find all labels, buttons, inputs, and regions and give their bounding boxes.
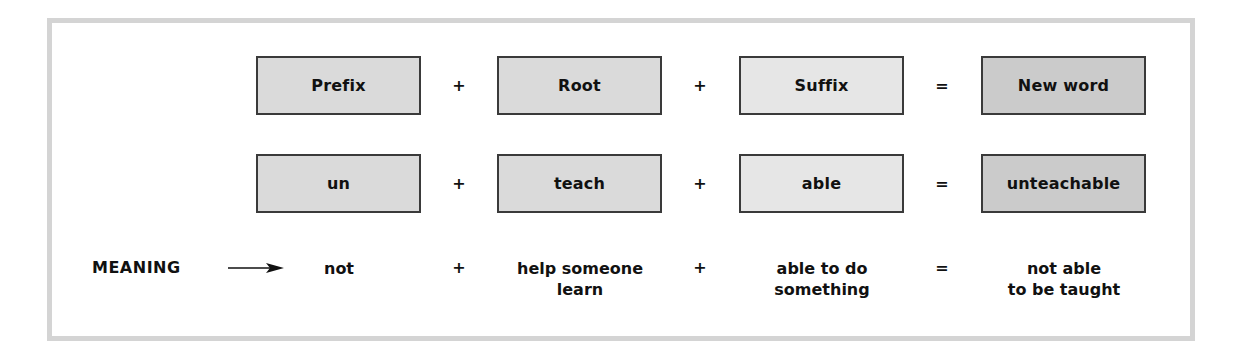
meaning-result-line2: to be taught xyxy=(974,279,1154,300)
plus-operator: + xyxy=(685,174,715,193)
meaning-prefix: not xyxy=(249,258,429,279)
plus-operator: + xyxy=(685,258,715,277)
root-header-label: Root xyxy=(558,76,601,95)
meaning-suffix-line2: something xyxy=(732,279,912,300)
meaning-root-line1: help someone xyxy=(490,258,670,279)
equals-operator: = xyxy=(927,76,957,95)
suffix-example-label: able xyxy=(802,174,841,193)
equals-operator: = xyxy=(927,174,957,193)
meaning-root: help someone learn xyxy=(490,258,670,300)
plus-operator: + xyxy=(444,174,474,193)
root-header-box: Root xyxy=(497,56,662,115)
suffix-header-box: Suffix xyxy=(739,56,904,115)
root-example-box: teach xyxy=(497,154,662,213)
plus-operator: + xyxy=(444,258,474,277)
meaning-suffix: able to do something xyxy=(732,258,912,300)
plus-operator: + xyxy=(685,76,715,95)
new-word-header-box: New word xyxy=(981,56,1146,115)
plus-operator: + xyxy=(444,76,474,95)
meaning-result-line1: not able xyxy=(974,258,1154,279)
suffix-header-label: Suffix xyxy=(795,76,849,95)
meaning-result: not able to be taught xyxy=(974,258,1154,300)
new-word-header-label: New word xyxy=(1018,76,1109,95)
prefix-header-box: Prefix xyxy=(256,56,421,115)
new-word-example-box: unteachable xyxy=(981,154,1146,213)
prefix-example-box: un xyxy=(256,154,421,213)
meaning-label: MEANING xyxy=(92,258,181,277)
new-word-example-label: unteachable xyxy=(1007,174,1121,193)
equals-operator: = xyxy=(927,258,957,277)
meaning-prefix-line1: not xyxy=(249,258,429,279)
prefix-header-label: Prefix xyxy=(311,76,365,95)
prefix-example-label: un xyxy=(327,174,350,193)
root-example-label: teach xyxy=(554,174,605,193)
meaning-suffix-line1: able to do xyxy=(732,258,912,279)
suffix-example-box: able xyxy=(739,154,904,213)
meaning-root-line2: learn xyxy=(490,279,670,300)
